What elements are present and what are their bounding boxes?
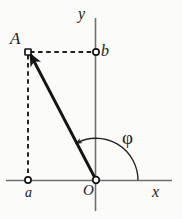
point-marker-A	[25, 49, 31, 55]
point-marker-a	[25, 177, 31, 183]
label-point-b: b	[101, 43, 109, 59]
label-axis-y: y	[78, 6, 85, 22]
label-axis-x: x	[152, 184, 159, 200]
label-point-a: a	[25, 186, 32, 200]
label-angle-phi: φ	[122, 128, 133, 147]
vector-OA	[31, 55, 97, 181]
point-marker-b	[93, 49, 99, 55]
label-point-A: A	[10, 30, 20, 47]
geometry-figure: A b y x O a φ	[0, 0, 182, 219]
label-origin: O	[83, 183, 94, 198]
